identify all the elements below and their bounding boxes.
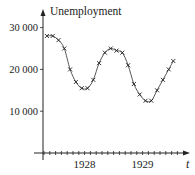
data-point	[138, 92, 142, 96]
data-point	[161, 78, 165, 82]
x-tick-label: 1929	[132, 158, 155, 170]
data-point	[126, 63, 130, 67]
data-point	[57, 38, 61, 42]
data-point	[86, 86, 90, 90]
y-tick-label: 10 000	[9, 106, 38, 117]
y-tick-label: 30 000	[9, 22, 38, 33]
axes	[34, 9, 190, 160]
data-point	[132, 82, 136, 86]
data-point	[149, 99, 153, 103]
x-tick-label: 1928	[74, 158, 97, 170]
data-point	[171, 59, 175, 63]
x-axis-label: t	[186, 157, 190, 171]
data-point	[103, 51, 107, 55]
data-point	[80, 86, 84, 90]
chart: 10 00020 00030 000 19281929 Unemployment…	[0, 0, 195, 175]
data-point	[155, 88, 159, 92]
data-point	[97, 61, 101, 65]
data-point	[120, 51, 124, 55]
y-axis-label: Unemployment	[50, 5, 122, 18]
fitted-curve	[47, 36, 173, 102]
y-tick-label: 20 000	[9, 64, 38, 75]
data-point	[144, 99, 148, 103]
x-ticks: 19281929	[44, 151, 177, 170]
data-point	[167, 67, 171, 71]
y-axis-arrow	[41, 9, 46, 16]
data-point	[91, 78, 95, 82]
x-axis-arrow	[183, 151, 190, 156]
data-point	[62, 47, 66, 51]
data-point	[74, 80, 78, 84]
y-ticks: 10 00020 00030 000	[9, 22, 43, 117]
